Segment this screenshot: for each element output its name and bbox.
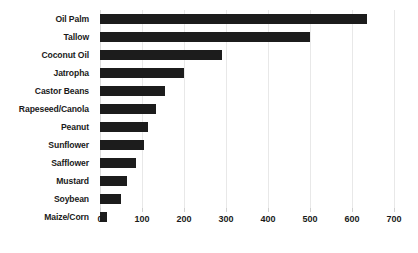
category-label: Maize/Corn <box>0 208 94 226</box>
category-axis-labels: Oil PalmTallowCoconut OilJatrophaCastor … <box>0 10 94 208</box>
x-tick-label: 600 <box>344 214 359 224</box>
bar <box>100 140 144 150</box>
bar-row <box>100 136 394 154</box>
bar <box>100 122 148 132</box>
x-tick-label: 0 <box>97 214 102 224</box>
x-tick-mark <box>310 208 311 212</box>
bar <box>100 158 136 168</box>
x-tick-label: 300 <box>218 214 233 224</box>
x-tick-label: 400 <box>260 214 275 224</box>
bar <box>100 194 121 204</box>
bar-row <box>100 118 394 136</box>
x-tick-label: 200 <box>176 214 191 224</box>
category-label: Peanut <box>0 118 94 136</box>
x-tick-label: 500 <box>302 214 317 224</box>
x-tick-label: 700 <box>386 214 401 224</box>
bar-row <box>100 64 394 82</box>
bar <box>100 14 367 24</box>
bar <box>100 50 222 60</box>
x-tick-mark <box>268 208 269 212</box>
plot-area <box>100 10 394 208</box>
bar-chart: Oil PalmTallowCoconut OilJatrophaCastor … <box>0 0 418 253</box>
bar-row <box>100 154 394 172</box>
bar <box>100 68 184 78</box>
category-label: Tallow <box>0 28 94 46</box>
bar <box>100 32 310 42</box>
x-tick-mark <box>142 208 143 212</box>
bar-row <box>100 82 394 100</box>
x-axis: 0100200300400500600700 <box>100 208 394 230</box>
x-tick-mark <box>100 208 101 212</box>
bar-row <box>100 10 394 28</box>
bar-row <box>100 190 394 208</box>
category-label: Oil Palm <box>0 10 94 28</box>
gridline <box>394 10 395 208</box>
category-label: Castor Beans <box>0 82 94 100</box>
category-label: Jatropha <box>0 64 94 82</box>
bar-series <box>100 10 394 208</box>
category-label: Rapeseed/Canola <box>0 100 94 118</box>
x-tick-label: 100 <box>134 214 149 224</box>
x-tick-mark <box>352 208 353 212</box>
x-tick-mark <box>394 208 395 212</box>
category-label: Mustard <box>0 172 94 190</box>
bar <box>100 176 127 186</box>
bar <box>100 104 156 114</box>
category-label: Safflower <box>0 154 94 172</box>
bar-row <box>100 46 394 64</box>
bar-row <box>100 172 394 190</box>
category-label: Coconut Oil <box>0 46 94 64</box>
bar-row <box>100 28 394 46</box>
category-label: Sunflower <box>0 136 94 154</box>
x-tick-mark <box>184 208 185 212</box>
x-tick-mark <box>226 208 227 212</box>
category-label: Soybean <box>0 190 94 208</box>
bar <box>100 86 165 96</box>
bar-row <box>100 100 394 118</box>
